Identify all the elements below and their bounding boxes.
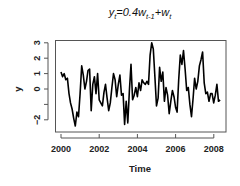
time-series-chart: yt=0.4wt-1+wt −20123 2000200220042006200… — [0, 0, 240, 186]
x-tick-label: 2002 — [89, 144, 109, 154]
y-tick-label: −2 — [32, 115, 42, 125]
y-tick-label: 3 — [32, 40, 42, 45]
x-tick-label: 2006 — [166, 144, 186, 154]
x-tick-label: 2008 — [204, 144, 224, 154]
chart-title: yt=0.4wt-1+wt — [108, 6, 172, 21]
y-axis-label: y — [12, 86, 23, 92]
x-axis: 20002002200420062008 — [51, 134, 224, 154]
y-tick-label: 0 — [32, 86, 42, 91]
x-axis-label: Time — [129, 163, 151, 174]
x-tick-label: 2004 — [127, 144, 147, 154]
series-line — [61, 43, 220, 126]
y-tick-label: 1 — [32, 71, 42, 76]
x-tick-label: 2000 — [51, 144, 71, 154]
y-tick-label: 2 — [32, 56, 42, 61]
y-axis: −20123 — [32, 40, 48, 125]
